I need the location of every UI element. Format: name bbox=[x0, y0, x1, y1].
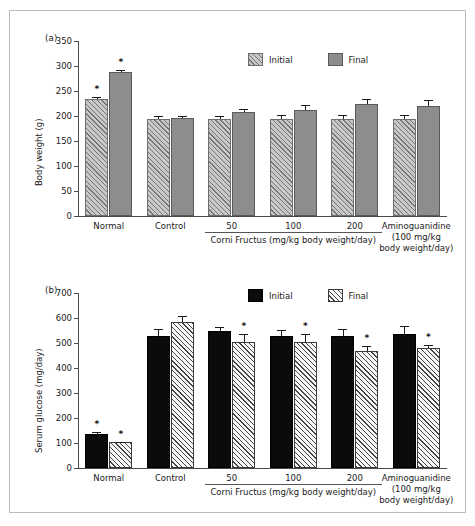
legend-item-final[interactable]: Final bbox=[328, 53, 369, 66]
error-bar bbox=[270, 115, 293, 119]
error-bar bbox=[331, 115, 354, 119]
y-tick-label: 0 bbox=[40, 463, 72, 473]
significance-asterisk: * bbox=[232, 322, 255, 331]
y-tick bbox=[74, 66, 78, 67]
bar-50-initial bbox=[208, 331, 231, 468]
y-tick-label: 200 bbox=[40, 413, 72, 423]
error-bar bbox=[208, 116, 231, 120]
bar-normal-initial bbox=[85, 434, 108, 469]
y-tick-label: 350 bbox=[40, 36, 72, 46]
y-tick bbox=[74, 91, 78, 92]
y-tick-label: 700 bbox=[40, 288, 72, 298]
y-tick-label: 50 bbox=[40, 186, 72, 196]
bar-aminoguanidine-initial bbox=[393, 119, 416, 216]
bar-50-initial bbox=[208, 119, 231, 216]
error-bar bbox=[331, 329, 354, 335]
bar-normal-initial bbox=[85, 99, 108, 217]
bar-control-initial bbox=[147, 119, 170, 216]
error-bar bbox=[294, 105, 317, 110]
figure-frame: (a) Body weight (g) ** InitialFinal Norm… bbox=[9, 10, 466, 513]
y-tick bbox=[74, 191, 78, 192]
error-bar bbox=[417, 100, 440, 106]
bar-100-initial bbox=[270, 336, 293, 469]
dose-group-bracket bbox=[205, 232, 382, 233]
y-tick-label: 600 bbox=[40, 313, 72, 323]
error-bar bbox=[109, 442, 132, 443]
y-tick bbox=[74, 141, 78, 142]
error-bar bbox=[109, 70, 132, 73]
bar-200-final bbox=[355, 351, 378, 468]
significance-asterisk: * bbox=[85, 85, 108, 94]
significance-asterisk: * bbox=[109, 58, 132, 67]
error-bar bbox=[355, 346, 378, 351]
y-tick-label: 400 bbox=[40, 363, 72, 373]
y-tick bbox=[74, 393, 78, 394]
x-label-100: 100 bbox=[258, 221, 328, 231]
y-tick-label: 300 bbox=[40, 388, 72, 398]
bar-aminoguanidine-initial bbox=[393, 334, 416, 468]
error-bar bbox=[147, 329, 170, 335]
legend-label: Initial bbox=[269, 291, 293, 301]
error-bar bbox=[355, 99, 378, 104]
panel-b-legend: InitialFinal bbox=[248, 289, 368, 302]
bar-200-final bbox=[355, 104, 378, 216]
error-bar bbox=[232, 334, 255, 342]
x-label-aminoguanidine-sub-1: (100 mg/kg bbox=[366, 232, 466, 242]
x-label-aminoguanidine-sub-2: body weight/day) bbox=[366, 495, 466, 505]
bar-100-initial bbox=[270, 119, 293, 216]
error-bar bbox=[232, 109, 255, 112]
error-bar bbox=[393, 115, 416, 120]
error-bar bbox=[294, 334, 317, 342]
x-label-aminoguanidine-sub-2: body weight/day) bbox=[366, 243, 466, 253]
legend-item-initial[interactable]: Initial bbox=[248, 53, 293, 66]
x-label-50: 50 bbox=[197, 473, 267, 483]
y-tick bbox=[74, 443, 78, 444]
y-tick bbox=[74, 318, 78, 319]
significance-asterisk: * bbox=[85, 420, 108, 429]
bar-normal-final bbox=[109, 72, 132, 216]
error-bar bbox=[171, 316, 194, 323]
legend-label: Initial bbox=[269, 55, 293, 65]
panel-b-x-axis bbox=[78, 468, 447, 469]
panel-b-serum-glucose: (b) Serum glucose (mg/day) ****** Initia… bbox=[10, 263, 467, 514]
bar-aminoguanidine-final bbox=[417, 348, 440, 468]
dose-group-bracket bbox=[205, 484, 382, 485]
panel-a-x-axis bbox=[78, 216, 447, 217]
legend-swatch-initial bbox=[248, 53, 263, 66]
bar-100-final bbox=[294, 342, 317, 468]
y-tick bbox=[74, 216, 78, 217]
y-tick-label: 100 bbox=[40, 161, 72, 171]
x-label-normal: Normal bbox=[74, 473, 144, 483]
y-tick bbox=[74, 41, 78, 42]
x-label-aminoguanidine: Aminoguanidine bbox=[371, 221, 461, 231]
legend-item-final[interactable]: Final bbox=[328, 289, 369, 302]
y-tick-label: 250 bbox=[40, 86, 72, 96]
y-tick bbox=[74, 166, 78, 167]
x-label-100: 100 bbox=[258, 473, 328, 483]
error-bar bbox=[417, 345, 440, 348]
error-bar bbox=[147, 116, 170, 120]
significance-asterisk: * bbox=[417, 333, 440, 342]
panel-a-body-weight: (a) Body weight (g) ** InitialFinal Norm… bbox=[10, 11, 467, 262]
bar-50-final bbox=[232, 342, 255, 468]
legend-item-initial[interactable]: Initial bbox=[248, 289, 293, 302]
error-bar bbox=[85, 97, 108, 99]
error-bar bbox=[208, 327, 231, 332]
panel-a-y-axis-title: Body weight (g) bbox=[34, 118, 44, 186]
y-tick-label: 300 bbox=[40, 61, 72, 71]
bar-200-initial bbox=[331, 336, 354, 469]
y-tick bbox=[74, 418, 78, 419]
error-bar bbox=[85, 432, 108, 433]
y-tick-label: 150 bbox=[40, 136, 72, 146]
legend-swatch-initial bbox=[248, 289, 263, 302]
y-tick-label: 100 bbox=[40, 438, 72, 448]
significance-asterisk: * bbox=[294, 322, 317, 331]
bar-control-final bbox=[171, 118, 194, 216]
legend-label: Final bbox=[349, 55, 369, 65]
x-label-aminoguanidine-sub-1: (100 mg/kg bbox=[366, 484, 466, 494]
y-tick bbox=[74, 116, 78, 117]
y-tick-label: 0 bbox=[40, 211, 72, 221]
bar-control-final bbox=[171, 322, 194, 468]
legend-swatch-final bbox=[328, 289, 343, 302]
significance-asterisk: * bbox=[355, 334, 378, 343]
